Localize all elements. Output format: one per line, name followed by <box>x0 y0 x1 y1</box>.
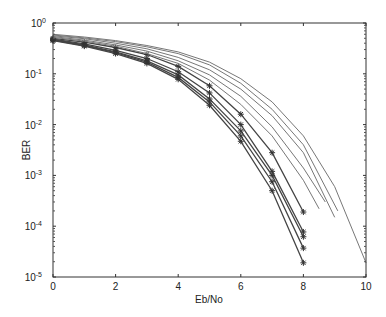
y-tick-label: 10-3 <box>25 169 42 181</box>
x-tick-label: 10 <box>360 281 372 292</box>
series-theoretical-1 <box>53 37 319 208</box>
y-tick-label: 100 <box>31 17 46 29</box>
plot-frame <box>53 23 366 277</box>
asterisk-marker <box>300 260 306 266</box>
y-tick-label: 10-5 <box>25 271 42 283</box>
series-theoretical-4 <box>53 35 338 211</box>
asterisk-marker <box>269 150 275 156</box>
series-simulated-1 <box>50 35 306 215</box>
y-axis-label: BER <box>21 140 32 161</box>
asterisk-marker <box>81 43 87 49</box>
asterisk-marker <box>238 122 244 128</box>
asterisk-marker <box>207 90 213 96</box>
asterisk-marker <box>269 179 275 185</box>
x-tick-label: 6 <box>238 281 244 292</box>
asterisk-marker <box>238 138 244 144</box>
x-tick-label: 4 <box>175 281 181 292</box>
x-axis-label: Eb/No <box>195 294 223 305</box>
asterisk-marker <box>113 51 119 57</box>
series-line <box>53 37 319 208</box>
asterisk-marker <box>175 76 181 82</box>
asterisk-marker <box>300 245 306 251</box>
asterisk-marker <box>207 102 213 108</box>
x-tick-label: 2 <box>113 281 119 292</box>
asterisk-marker <box>238 111 244 117</box>
asterisk-marker <box>269 188 275 194</box>
y-tick-label: 10-1 <box>25 68 42 80</box>
series-theoretical-5 <box>53 34 366 262</box>
x-tick-label: 8 <box>301 281 307 292</box>
asterisk-marker <box>300 209 306 215</box>
asterisk-marker <box>300 234 306 240</box>
ber-chart: 0246810 10010-110-210-310-410-5 Eb/No BE… <box>0 0 386 317</box>
y-tick-label: 10-4 <box>25 220 42 232</box>
series-line <box>53 34 366 262</box>
asterisk-marker <box>207 83 213 89</box>
series-line <box>53 35 338 211</box>
y-tick-label: 10-2 <box>25 119 42 131</box>
plot-lines <box>50 34 366 266</box>
y-axis-ticks: 10010-110-210-310-410-5 <box>25 17 366 283</box>
asterisk-marker <box>144 60 150 66</box>
x-tick-label: 0 <box>50 281 56 292</box>
